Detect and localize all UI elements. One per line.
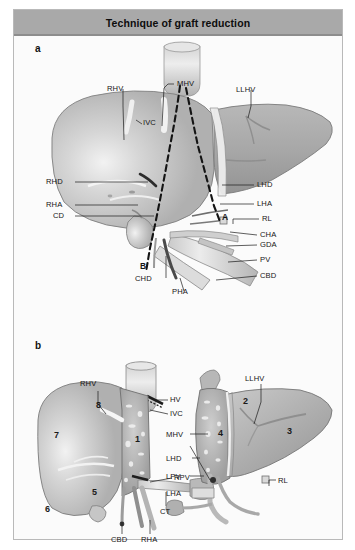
panel-b-letter: b [35, 340, 41, 351]
segment-7: 7 [54, 430, 59, 440]
label-b-ct: CT [160, 507, 170, 516]
label-rha: RHA [46, 200, 62, 209]
label-pv: PV [260, 255, 270, 264]
label-lhd: LHD [257, 180, 273, 189]
segment-2: 2 [243, 396, 248, 406]
label-cha: CHA [260, 230, 276, 239]
segment-1: 1 [135, 434, 140, 444]
label-rhd: RHD [46, 177, 63, 186]
cut-marker-b: B [140, 261, 146, 271]
figure-frame: Technique of graft reduction [13, 9, 343, 540]
label-cd: CD [53, 211, 64, 220]
label-b-hv: HV [170, 395, 181, 404]
label-gda: GDA [260, 240, 277, 249]
label-pha: PHA [172, 287, 188, 296]
page-title: Technique of graft reduction [14, 10, 342, 36]
label-b-ivc: IVC [170, 409, 183, 418]
cut-marker-a: A [222, 212, 228, 222]
segment-8: 8 [96, 400, 101, 410]
segment-6: 6 [45, 504, 50, 514]
segment-5: 5 [92, 487, 97, 497]
label-b-lpv: LPV [166, 472, 181, 481]
label-b-mhv: MHV [166, 430, 183, 439]
label-b-lha: LHA [166, 489, 181, 498]
label-rl: RL [262, 214, 272, 223]
label-b-cbd: CBD [111, 535, 127, 544]
label-b-rha: RHA [141, 535, 157, 544]
label-llhv: LLHV [236, 85, 255, 94]
label-b-rhv: RHV [80, 379, 96, 388]
segment-3: 3 [287, 426, 292, 436]
label-rhv: RHV [107, 84, 123, 93]
label-cbd: CBD [260, 271, 276, 280]
label-lha: LHA [257, 199, 272, 208]
label-b-llhv: LLHV [245, 374, 264, 383]
label-mhv: MHV [177, 79, 194, 88]
panel-b-left-graft-illustration [166, 370, 332, 522]
label-b-rl: RL [278, 476, 288, 485]
panel-b-right-graft-illustration [38, 362, 214, 534]
label-b-lhd: LHD [166, 454, 182, 463]
figure-title-bar: Technique of graft reduction [14, 10, 342, 36]
segment-4: 4 [218, 428, 223, 438]
panel-a-letter: a [35, 43, 41, 54]
label-chd: CHD [135, 274, 152, 283]
label-ivc: IVC [143, 118, 156, 127]
